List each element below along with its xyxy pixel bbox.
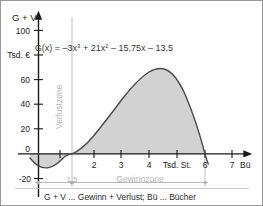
y-tick-label-0: 0 — [25, 144, 30, 154]
x-tick-label-6: 6 — [203, 160, 208, 170]
y-tick-label-20: 20 — [21, 124, 31, 134]
y-tick-label-unit: Tsd. € — [7, 50, 30, 60]
x-axis-unit-label: Bü — [240, 160, 251, 170]
figure-caption: G + V ... Gewinn + Verlust; Bü ... Büche… — [44, 192, 196, 202]
x-tick-label-2: 2 — [92, 160, 97, 170]
y-tick-label-60: 60 — [21, 75, 31, 85]
function-formula: G(x) = –3x3 + 21x2 – 15,75x – 13,5 — [35, 43, 173, 54]
y-tick-label-100: 100 — [16, 26, 30, 36]
x-tick-label-4: 4 — [147, 160, 152, 170]
y-tick-label-minus20: -20 — [19, 174, 32, 184]
profit-zone-label: Gewinnzone — [116, 174, 164, 184]
y-axis-title: G + V — [12, 12, 37, 23]
chart-canvas: 100 Tsd. € 60 40 20 0 -20 G + V 2 3 4 Ts… — [1, 1, 262, 205]
y-tick-label-40: 40 — [21, 99, 31, 109]
x-tick-label-3: 3 — [119, 160, 124, 170]
x-tick-label-7: 7 — [230, 160, 235, 170]
x-tick-label-unit: Tsd. St. — [163, 160, 191, 170]
loss-zone-label: Verlustzone — [54, 84, 64, 129]
profit-loss-chart-figure: 100 Tsd. € 60 40 20 0 -20 G + V 2 3 4 Ts… — [0, 0, 263, 206]
